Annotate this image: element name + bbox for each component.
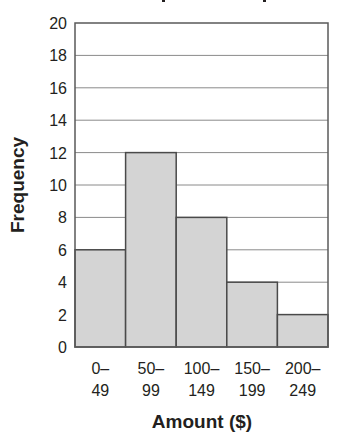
y-tick-label: 12 [49, 145, 67, 162]
y-tick-label: 4 [58, 274, 67, 291]
histogram-bar [75, 250, 126, 347]
histogram-bar [126, 153, 177, 347]
histogram-chart: 02468101214161820 0–4950–99100–149150–19… [0, 0, 338, 441]
x-tick-label: 200– [285, 360, 321, 377]
histogram-bar [176, 217, 227, 347]
histogram-bar [227, 282, 278, 347]
y-tick-label: 6 [58, 242, 67, 259]
x-tick-label: 149 [188, 382, 215, 399]
chart-title-fragment [162, 0, 266, 2]
y-tick-label: 0 [58, 339, 67, 356]
x-tick-label: 100– [184, 360, 220, 377]
y-tick-label: 2 [58, 307, 67, 324]
histogram-bar [277, 315, 328, 347]
x-tick-label: 199 [239, 382, 266, 399]
x-axis-label: Amount ($) [152, 411, 252, 432]
x-tick-label: 49 [91, 382, 109, 399]
y-tick-label: 14 [49, 112, 67, 129]
y-tick-label: 16 [49, 80, 67, 97]
y-axis-label: Frequency [7, 137, 28, 234]
y-tick-label: 8 [58, 209, 67, 226]
x-tick-label: 150– [234, 360, 270, 377]
y-tick-label: 10 [49, 177, 67, 194]
y-axis-ticks: 02468101214161820 [49, 15, 67, 356]
y-tick-label: 20 [49, 15, 67, 32]
y-tick-label: 18 [49, 47, 67, 64]
x-tick-label: 50– [138, 360, 165, 377]
x-tick-label: 0– [91, 360, 109, 377]
x-tick-label: 249 [289, 382, 316, 399]
x-tick-label: 99 [142, 382, 160, 399]
x-axis-ticks: 0–4950–99100–149150–199200–249 [91, 360, 320, 399]
